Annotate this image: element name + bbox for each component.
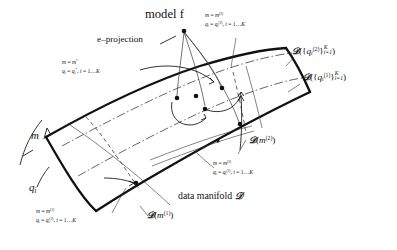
point-right-lower	[238, 122, 243, 127]
annotation-line-1: m = m(1)	[36, 209, 76, 215]
point-small-mid	[217, 140, 220, 143]
point-right-upper	[220, 86, 225, 91]
annotation-line-2: qi = qi*, i = 1…K	[62, 69, 100, 75]
annotation-bottom-left-state: m = m(1) qi = qi(1), i = 1…K	[36, 209, 76, 224]
annotation-line-2: qi = qi(1), i = 1…K	[213, 170, 253, 176]
point-lower-left	[134, 181, 139, 186]
curve-label-D-q1-family: 𝒟({qi(1)}Ki=1)	[303, 71, 346, 83]
model-f-point	[182, 29, 187, 34]
q-axis-label: qi	[29, 182, 37, 194]
curve-label-D-q2-family: 𝒟({qi(2)}Ki=1)	[292, 45, 335, 57]
guide-curves	[150, 126, 254, 166]
curve-label-D-m1: 𝒟(m(1))	[147, 211, 173, 221]
m-family-curves	[70, 66, 262, 205]
m-axis-label: m	[31, 130, 39, 142]
data-manifold-label: data manifold 𝒟	[178, 191, 243, 201]
curve-label-D-m2: 𝒟(m(2))	[249, 136, 275, 146]
annotation-top-right-state: m = m(2) qi = qi(2), i = 1…K	[205, 13, 245, 28]
point-star	[175, 96, 180, 101]
annotation-mid-right-state: m = m(2) qi = qi(1), i = 1…K	[213, 161, 253, 176]
annotation-line-2: qi = qi(2), i = 1…K	[205, 22, 245, 28]
point-upper-mid	[194, 94, 199, 99]
annotation-line-2: qi = qi(1), i = 1…K	[36, 218, 76, 224]
annotation-line-1: m = m*	[62, 60, 100, 66]
model-f-label: model f	[145, 8, 184, 21]
annotation-star-state: m = m* qi = qi*, i = 1…K	[62, 60, 100, 75]
point-center	[203, 107, 208, 112]
annotation-line-1: m = m(2)	[213, 161, 253, 167]
annotation-line-1: m = m(2)	[205, 13, 245, 19]
e-projection-label: e–projection	[97, 35, 143, 45]
